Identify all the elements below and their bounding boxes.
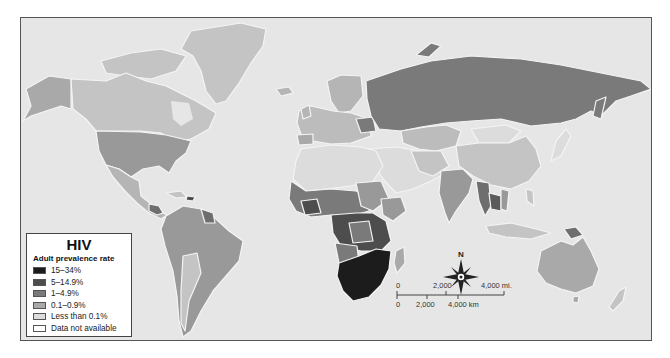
scale-bar: 0 2,000 4,000 mi. 0 2,000 4,000 km: [396, 281, 536, 321]
legend-swatch: [33, 313, 46, 320]
legend-title: HIV: [33, 237, 125, 253]
region-iceland: [276, 87, 293, 96]
legend-label: 0.1–0.9%: [51, 301, 86, 310]
region-drc-low: [349, 221, 373, 243]
legend-swatch: [33, 279, 46, 286]
scale-mi-mid: 2,000: [433, 281, 452, 290]
scale-km-start: 0: [396, 300, 400, 309]
region-arctic-islands: [101, 49, 186, 79]
region-greenland: [181, 23, 266, 104]
region-png: [564, 227, 583, 239]
legend-item: Less than 0.1%: [33, 311, 125, 323]
region-vietnam: [501, 189, 509, 211]
legend-swatch: [33, 290, 46, 297]
region-india: [439, 169, 473, 223]
region-new-zealand: [609, 287, 626, 311]
legend-item: 15–34%: [33, 265, 125, 277]
region-caribbean: [166, 191, 187, 198]
legend-label: 1–4.9%: [51, 289, 79, 298]
legend-label: 5–14.9%: [51, 278, 83, 287]
region-australia: [537, 237, 599, 293]
region-canada: [71, 73, 216, 141]
scale-km-mid: 2,000: [416, 300, 435, 309]
region-philippines: [526, 189, 534, 206]
scale-mi-end: 4,000 mi.: [481, 281, 512, 290]
region-madagascar: [394, 247, 405, 273]
legend-item: Data not available: [33, 323, 125, 335]
compass-north-label: N: [458, 250, 464, 259]
legend-swatch: [33, 302, 46, 309]
region-japan: [551, 129, 571, 161]
region-alaska: [23, 76, 71, 121]
legend-label: 15–34%: [51, 266, 81, 275]
region-haiti: [186, 196, 195, 201]
region-myanmar: [476, 181, 491, 216]
legend-label: Data not available: [51, 324, 117, 333]
region-novaya-zemlya: [416, 43, 441, 57]
region-thailand-cambodia: [489, 193, 501, 211]
region-west-africa-high: [301, 199, 321, 215]
region-russia: [366, 56, 651, 131]
region-spain-portugal: [297, 134, 313, 145]
legend-swatch: [33, 267, 46, 274]
region-horn-of-africa: [381, 197, 406, 221]
region-mongolia: [471, 125, 521, 143]
legend-subtitle: Adult prevalence rate: [33, 254, 125, 263]
legend: HIV Adult prevalence rate 15–34% 5–14.9%…: [26, 233, 132, 337]
region-tasmania: [573, 296, 579, 303]
region-scandinavia: [327, 75, 363, 113]
scale-mi-start: 0: [396, 281, 400, 290]
legend-item: 5–14.9%: [33, 277, 125, 289]
legend-label: Less than 0.1%: [51, 312, 107, 321]
region-indonesia: [486, 223, 551, 239]
legend-item: 1–4.9%: [33, 288, 125, 300]
region-south-america: [161, 206, 243, 337]
scale-km-end: 4,000 km: [448, 300, 479, 309]
legend-item: 0.1–0.9%: [33, 300, 125, 312]
region-uk: [301, 105, 311, 119]
legend-swatch: [33, 325, 46, 332]
